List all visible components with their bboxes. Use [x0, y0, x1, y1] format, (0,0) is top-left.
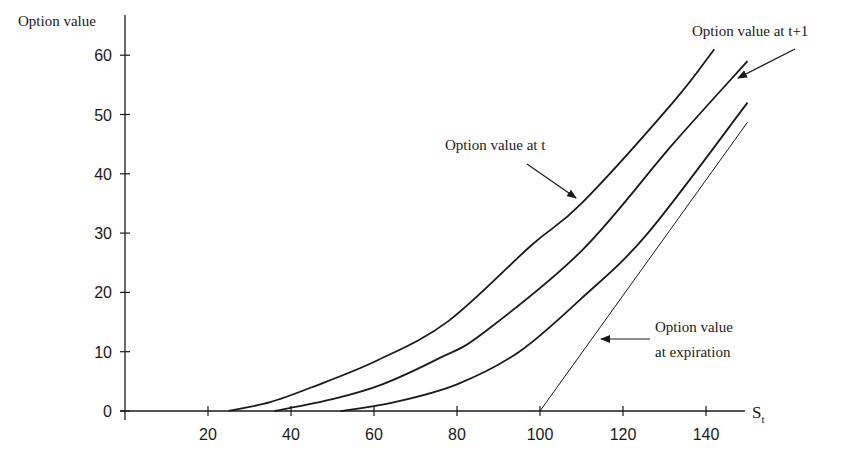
option-value-chart: 0102030405060 Option value 2040608010012… — [0, 0, 853, 464]
annotation-expiration: Option value at expiration — [601, 319, 733, 360]
y-tick-label: 20 — [94, 284, 112, 301]
annotation-t1: Option value at t+1 — [692, 23, 808, 78]
y-tick-label: 30 — [94, 225, 112, 242]
arrow-icon — [527, 164, 576, 198]
annotation-label-t: Option value at t — [445, 137, 546, 153]
x-tick-label: 120 — [610, 426, 637, 443]
series-line-3 — [540, 122, 748, 411]
y-tick-label: 0 — [103, 403, 112, 420]
x-tick-label: 140 — [693, 426, 720, 443]
x-tick-label: 60 — [365, 426, 383, 443]
x-tick-label: 80 — [448, 426, 466, 443]
series-line-0 — [229, 49, 715, 411]
annotation-label-expiration-2: at expiration — [655, 344, 731, 360]
x-axis: 20406080100120140 St — [120, 403, 765, 443]
x-tick-label: 20 — [199, 426, 217, 443]
y-tick-label: 10 — [94, 344, 112, 361]
x-tick-label: 40 — [282, 426, 300, 443]
x-tick-label: 100 — [527, 426, 554, 443]
y-tick-label: 50 — [94, 107, 112, 124]
annotation-label-expiration-1: Option value — [655, 319, 733, 335]
y-tick-label: 60 — [94, 47, 112, 64]
y-axis-label: Option value — [18, 13, 96, 29]
annotation-t: Option value at t — [445, 137, 576, 198]
y-tick-label: 40 — [94, 166, 112, 183]
annotation-label-t1: Option value at t+1 — [692, 23, 808, 39]
x-axis-label: St — [752, 403, 765, 425]
y-axis: 0102030405060 Option value — [18, 13, 130, 420]
